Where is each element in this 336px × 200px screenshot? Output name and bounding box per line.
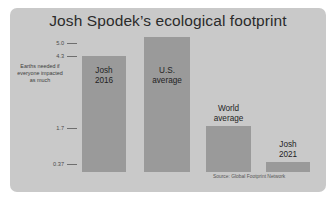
bar-label-josh-2016: Josh 2016 <box>82 66 126 86</box>
plot-area: 5.0 4.3 1.7 0.37 Earths needed if everyo… <box>10 8 326 192</box>
bar-world-average[interactable] <box>206 126 251 172</box>
axis-caption: Earths needed if everyone impacted as mu… <box>14 63 66 85</box>
axis-tick-label: 1.7 <box>56 123 64 133</box>
axis-tick-label: 4.3 <box>56 51 64 61</box>
chart-card: Josh Spodek’s ecological footprint 5.0 4… <box>10 8 326 192</box>
axis-tick-4-3: 4.3 <box>10 51 78 61</box>
axis-tick-1-7: 1.7 <box>10 123 78 133</box>
axis-tick-0-37: 0.37 <box>10 159 78 169</box>
axis-tick-mark <box>67 43 77 44</box>
axis-tick-label: 0.37 <box>53 159 64 169</box>
bar-label-josh-2021: Josh 2021 <box>266 140 310 160</box>
bar-label-us-average: U.S. average <box>144 66 190 86</box>
axis-tick-mark <box>67 128 77 129</box>
axis-tick-mark <box>67 164 77 165</box>
axis-tick-mark <box>67 56 77 57</box>
axis-tick-5-0: 5.0 <box>10 38 78 48</box>
axis-tick-label: 5.0 <box>56 38 64 48</box>
bar-josh-2021[interactable] <box>266 162 310 172</box>
bar-us-average[interactable] <box>144 37 190 172</box>
source-note: Source: Global Footprint Network <box>213 174 285 179</box>
bar-label-world-average: World average <box>204 104 253 124</box>
